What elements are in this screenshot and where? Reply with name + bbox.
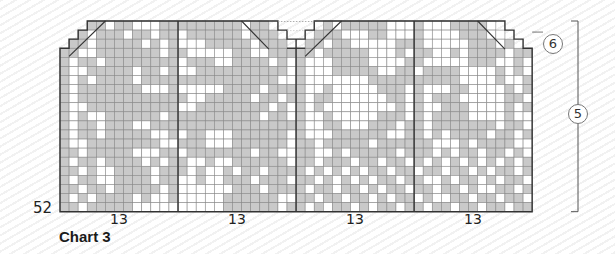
- repeat-label-3: 13: [335, 211, 375, 227]
- circled-number-6-text: 6: [549, 36, 557, 51]
- repeat-label-1: 13: [99, 211, 139, 227]
- row-number-label: 52: [33, 199, 52, 217]
- chart-grid: [0, 0, 615, 254]
- circled-number-5-text: 5: [574, 106, 582, 121]
- repeat-label-4: 13: [453, 211, 493, 227]
- knitting-chart: [0, 0, 615, 254]
- chart-title: Chart 3: [59, 228, 111, 245]
- repeat-label-2: 13: [217, 211, 257, 227]
- circled-number-5: 5: [568, 104, 588, 124]
- circled-number-6: 6: [543, 34, 563, 54]
